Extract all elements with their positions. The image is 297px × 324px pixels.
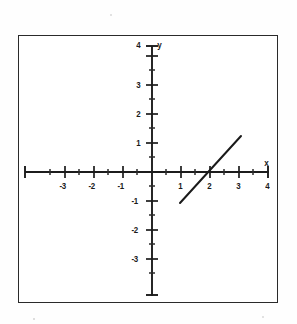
x-tick-label: -2 (88, 182, 95, 191)
x-tick-label: -1 (117, 182, 124, 191)
y-tick-label: 3 (136, 81, 140, 90)
axes-svg (0, 0, 297, 324)
y-tick-label: 1 (136, 139, 140, 148)
plotted-line-segment (180, 136, 241, 203)
y-tick-label: 4 (136, 41, 140, 50)
y-tick-label: -2 (131, 226, 138, 235)
y-tick-label: -1 (131, 197, 138, 206)
x-axis-label: x (264, 159, 269, 168)
y-tick-label: 2 (136, 110, 140, 119)
y-axis-label: y (157, 41, 162, 50)
x-tick-label: -3 (59, 182, 66, 191)
x-tick-label: 2 (207, 182, 211, 191)
x-tick-label: 1 (178, 182, 182, 191)
y-tick-label: -3 (131, 255, 138, 264)
x-tick-label: 4 (265, 182, 269, 191)
x-tick-label: 3 (236, 182, 240, 191)
graph-screenshot: -3 -2 -1 1 2 3 4 4 3 2 1 -1 -2 -3 x y (0, 0, 297, 324)
coordinate-plane: -3 -2 -1 1 2 3 4 4 3 2 1 -1 -2 -3 x y (0, 0, 297, 324)
